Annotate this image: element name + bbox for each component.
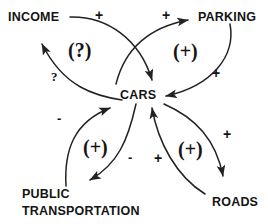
loop-marker-public: (+) <box>83 137 108 157</box>
polarity-cars-to-roads: + <box>223 127 231 141</box>
node-label-roads: ROADS <box>212 195 258 209</box>
node-label-transportation: TRANSPORTATION <box>22 204 140 218</box>
polarity-cars-to-income: ? <box>51 70 58 84</box>
polarity-income-to-cars: + <box>95 8 103 22</box>
node-label-income: INCOME <box>8 10 59 24</box>
polarity-roads-to-cars: + <box>154 151 162 165</box>
node-label-cars: CARS <box>120 88 156 102</box>
node-label-public: PUBLIC <box>22 187 70 201</box>
polarity-public-to-cars: - <box>128 151 132 165</box>
causal-loop-diagram: INCOME PARKING CARS PUBLIC TRANSPORTATIO… <box>0 0 268 224</box>
polarity-cars-to-public: - <box>57 112 61 126</box>
loop-marker-roads: (+) <box>178 139 203 159</box>
node-label-parking: PARKING <box>198 10 256 24</box>
loop-marker-income: (?) <box>68 40 91 60</box>
polarity-cars-to-parking: + <box>162 8 170 22</box>
loop-marker-parking: (+) <box>173 41 198 61</box>
polarity-parking-to-cars: + <box>212 66 220 80</box>
